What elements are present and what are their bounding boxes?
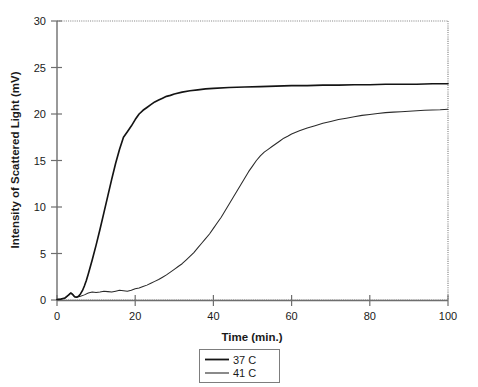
chart-figure: 30 25 20 15 10 5 0 0 20 40 60 80 100 Tim… [0, 0, 478, 387]
y-tick-label-0: 0 [40, 294, 46, 306]
y-axis-tick-labels: 30 25 20 15 10 5 0 [34, 15, 46, 306]
chart-svg: 30 25 20 15 10 5 0 0 20 40 60 80 100 Tim… [0, 0, 478, 387]
x-tick-label-20: 20 [129, 310, 141, 322]
legend-label-37c: 37 C [233, 354, 256, 366]
y-tick-label-25: 25 [34, 62, 46, 74]
chart-legend: 37 C 41 C [200, 350, 280, 383]
x-tick-label-100: 100 [439, 310, 457, 322]
y-tick-label-10: 10 [34, 201, 46, 213]
series-line-37c [57, 84, 448, 300]
legend-label-41c: 41 C [233, 367, 256, 379]
y-tick-label-20: 20 [34, 108, 46, 120]
y-tick-label-30: 30 [34, 15, 46, 27]
x-axis-tick-labels: 0 20 40 60 80 100 [54, 310, 457, 322]
x-tick-label-40: 40 [207, 310, 219, 322]
y-tick-label-15: 15 [34, 155, 46, 167]
series-line-41c [57, 109, 448, 299]
x-axis-title: Time (min.) [221, 331, 282, 343]
x-tick-label-80: 80 [364, 310, 376, 322]
x-tick-label-60: 60 [285, 310, 297, 322]
x-tick-label-0: 0 [54, 310, 60, 322]
y-tick-label-5: 5 [40, 248, 46, 260]
y-axis-title: Intensity of Scattered Light (mV) [9, 71, 21, 248]
